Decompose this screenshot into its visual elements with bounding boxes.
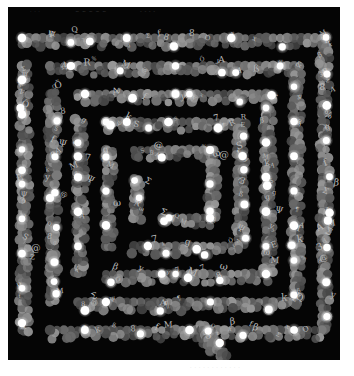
svg-text:ω: ω [113,197,121,208]
svg-text:ß: ß [253,63,259,74]
svg-text:Ψ: Ψ [58,137,69,150]
svg-text:M: M [270,255,280,265]
svg-text:@: @ [90,297,98,307]
top-caption-2: - - - - [140,8,156,16]
svg-text:y: y [44,171,51,182]
svg-text:A: A [217,54,226,64]
svg-text:%: % [91,55,97,61]
svg-text:8: 8 [149,149,154,157]
artwork-panel: ΨRQ7gΣf88OxxMÖkkβg3Sz8A%zgfβΣzAΣMA38@kyÖ… [8,7,340,360]
svg-text:ω: ω [219,260,229,272]
svg-text:R: R [83,56,91,67]
svg-text:%: % [301,254,307,261]
svg-text:Ψ: Ψ [274,204,284,215]
svg-text:O: O [205,34,212,42]
svg-text:Q: Q [70,25,79,35]
svg-text:M: M [164,319,174,329]
svg-text:@: @ [219,149,230,161]
svg-text:¶: ¶ [176,294,182,303]
spiral-artwork: ΨRQ7gΣf88OxxMÖkkβg3Sz8A%zgfβΣzAΣMA38@kyÖ… [8,7,340,360]
top-caption-1: ~ ~ ~ ~ ~ [75,8,107,16]
svg-text:Ö: Ö [53,78,63,90]
svg-text:β: β [260,116,265,125]
svg-text:Ψ: Ψ [20,190,28,200]
svg-text:β: β [111,261,120,272]
svg-text:Σ: Σ [146,33,150,39]
bottom-caption: · · · · · · · · · · · · [190,364,240,370]
svg-text:A: A [269,161,275,168]
svg-text:Ö: Ö [199,55,206,63]
svg-text:8: 8 [189,27,195,38]
svg-text:8: 8 [319,82,325,92]
top-caption-0: · · · [30,8,40,16]
svg-text:8: 8 [59,105,66,116]
svg-text:@: @ [31,242,41,253]
svg-text:E: E [240,121,245,129]
svg-text:7: 7 [85,151,92,162]
svg-text:g: g [323,121,332,132]
